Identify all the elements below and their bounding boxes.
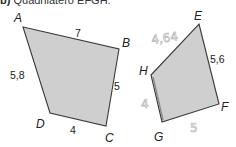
side-length-bc: 5 — [114, 80, 120, 92]
quadrilateral-efgh: EFGH 5,6 4,6445 — [139, 9, 229, 144]
vertex-label-a: A — [13, 11, 22, 25]
side-length-ab: 7 — [75, 27, 81, 39]
side-length-dc: 4 — [70, 124, 76, 136]
vertex-label-b: B — [122, 36, 130, 50]
side-length-ef: 5,6 — [210, 53, 225, 65]
vertex-label-h: H — [139, 64, 148, 78]
item-letter: b) — [0, 0, 10, 6]
geometry-figure: b) Quadrilátero EFGH. ABCD 755,84 EFGH 5… — [0, 0, 236, 147]
vertex-label-e: E — [194, 9, 203, 23]
polygon-abcd — [23, 27, 119, 126]
vertex-label-c: C — [105, 131, 114, 145]
exercise-header: b) Quadrilátero EFGH. — [0, 0, 111, 6]
side-length-ad: 5,8 — [10, 69, 25, 81]
handwritten-length-hg: 4 — [141, 97, 149, 111]
handwritten-length-gf: 5 — [190, 121, 198, 135]
vertex-label-d: D — [36, 117, 45, 131]
handwritten-length-he: 4,64 — [150, 29, 178, 47]
quadrilateral-abcd: ABCD 755,84 — [10, 11, 130, 145]
quadrilaterals-diagram: ABCD 755,84 EFGH 5,6 4,6445 — [0, 0, 236, 147]
vertex-label-f: F — [221, 100, 229, 114]
side-labels-efgh: 5,6 — [210, 53, 225, 65]
vertex-label-g: G — [154, 130, 163, 144]
exercise-title: Quadrilátero EFGH. — [13, 0, 110, 6]
